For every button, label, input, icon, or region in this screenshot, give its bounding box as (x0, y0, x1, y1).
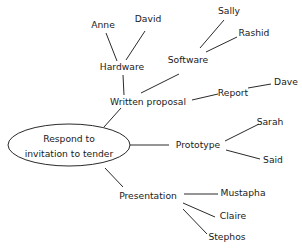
node-dave: Dave (274, 76, 298, 87)
connector-software-sally (200, 20, 224, 48)
connector-root-written-proposal (104, 108, 121, 127)
node-sally: Sally (218, 5, 241, 16)
node-prototype: Prototype (176, 139, 221, 150)
node-stephos: Stephos (208, 231, 245, 242)
connector-hardware-anne (106, 33, 117, 61)
node-written-proposal: Written proposal (110, 96, 186, 107)
connector-root-presentation (105, 168, 123, 187)
node-software: Software (168, 54, 209, 65)
node-said: Said (263, 154, 283, 165)
node-claire: Claire (220, 210, 247, 221)
connector-prototype-sarah (225, 124, 259, 141)
root-label-line-2: invitation to tender (25, 148, 114, 159)
connector-software-rashid (206, 37, 237, 52)
node-presentation: Presentation (119, 190, 177, 201)
node-david: David (135, 13, 162, 24)
root-label-line-1: Respond to (43, 133, 95, 144)
connector-prototype-said (226, 150, 260, 159)
connector-presentation-stephos (183, 209, 207, 234)
connector-report-dave (248, 84, 271, 88)
node-anne: Anne (91, 19, 115, 30)
root-node: Respond to invitation to tender (8, 124, 130, 166)
node-mustapha: Mustapha (220, 187, 265, 198)
connector-hardware-david (126, 31, 145, 60)
node-hardware: Hardware (100, 61, 145, 72)
root-ellipse (8, 124, 130, 166)
node-rashid: Rashid (239, 27, 270, 38)
connector-written-proposal-report (192, 94, 218, 100)
connector-presentation-claire (183, 203, 215, 217)
node-sarah: Sarah (257, 116, 284, 127)
connector-written-proposal-software (141, 74, 179, 93)
mind-map: Respond to invitation to tender Written … (0, 0, 302, 251)
connector-written-proposal-hardware (123, 75, 124, 95)
node-report: Report (218, 87, 249, 98)
